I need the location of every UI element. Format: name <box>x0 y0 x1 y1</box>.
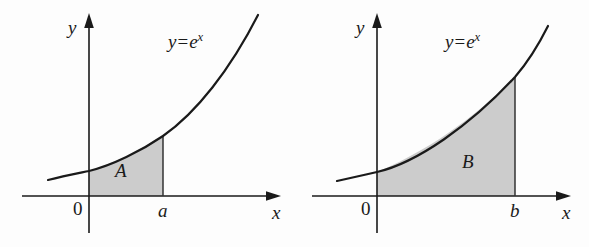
function-label-b: y=ex <box>445 31 480 51</box>
upper-bound-label-b: b <box>510 201 520 220</box>
panel-a-graphic <box>0 0 295 247</box>
equation-operator-a: = <box>176 31 189 52</box>
y-axis-arrowhead-b <box>372 13 382 28</box>
x-axis-label-b: x <box>562 203 570 222</box>
shaded-region-b <box>377 77 515 196</box>
upper-bound-label-a: a <box>158 201 168 220</box>
equation-operator-b: = <box>453 31 466 52</box>
equation-base-b: e <box>466 31 474 52</box>
figure-root: y x 0 a A y=ex y <box>0 0 589 247</box>
region-label-b: B <box>462 152 474 171</box>
function-label-a: y=ex <box>168 31 203 51</box>
y-axis-arrowhead-a <box>84 13 94 28</box>
y-axis-label-b: y <box>356 18 364 37</box>
panel-area-a: y x 0 a A y=ex <box>0 0 295 247</box>
panel-area-b: y x 0 b B y=ex <box>294 0 589 247</box>
x-axis-arrowhead-a <box>266 191 281 201</box>
equation-exponent-a: x <box>198 30 204 44</box>
x-axis-arrowhead-b <box>556 191 571 201</box>
region-label-a: A <box>115 161 127 180</box>
panel-b-graphic <box>294 0 589 247</box>
equation-base-a: e <box>189 31 197 52</box>
equation-exponent-b: x <box>475 30 481 44</box>
origin-label-a: 0 <box>73 199 83 218</box>
x-axis-label-a: x <box>272 203 280 222</box>
origin-label-b: 0 <box>361 199 371 218</box>
y-axis-label-a: y <box>68 18 76 37</box>
